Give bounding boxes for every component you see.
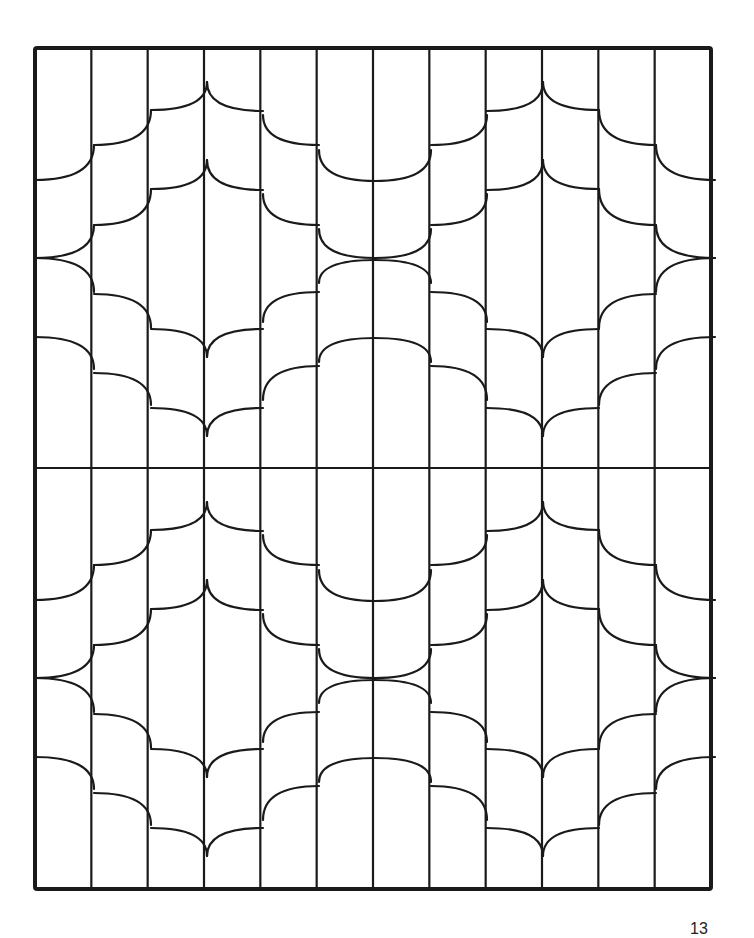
arc-segment bbox=[487, 580, 543, 610]
arc-segment bbox=[263, 614, 319, 645]
arc-segment bbox=[543, 160, 599, 189]
arc-segment bbox=[431, 194, 487, 225]
arc-segment bbox=[543, 828, 599, 856]
arc-segment bbox=[319, 649, 375, 678]
arc-segment bbox=[35, 258, 94, 292]
arc-segment bbox=[35, 565, 94, 600]
arc-segment bbox=[319, 570, 375, 601]
arc-segment bbox=[207, 502, 263, 531]
arc-segment bbox=[599, 609, 656, 645]
arc-segment bbox=[94, 189, 151, 225]
arc-segment bbox=[375, 649, 431, 678]
arc-segment bbox=[543, 82, 599, 110]
arc-segment bbox=[599, 530, 656, 565]
page-number: 13 bbox=[690, 920, 708, 938]
arc-segment bbox=[263, 786, 319, 820]
arc-segment bbox=[599, 793, 656, 825]
arc-segment bbox=[94, 530, 151, 565]
arc-segment bbox=[487, 408, 543, 436]
arc-segment bbox=[263, 366, 319, 400]
arc-segment bbox=[375, 229, 431, 258]
arc-segment bbox=[656, 258, 715, 292]
arc-segment bbox=[151, 408, 207, 436]
arc-segment bbox=[375, 338, 431, 362]
arc-segment bbox=[656, 678, 715, 712]
arc-segment bbox=[375, 150, 431, 181]
arc-segment bbox=[94, 793, 151, 825]
arc-segment bbox=[487, 502, 543, 531]
arc-segment bbox=[319, 680, 375, 703]
arc-segment bbox=[151, 329, 207, 357]
arc-segment bbox=[35, 337, 94, 369]
arc-segment bbox=[487, 160, 543, 190]
arc-segment bbox=[35, 225, 94, 258]
arc-segment bbox=[487, 329, 543, 357]
arc-segment bbox=[263, 115, 319, 145]
arc-segment bbox=[94, 609, 151, 645]
arc-segment bbox=[431, 786, 487, 820]
arc-segment bbox=[35, 678, 94, 712]
arc-segment bbox=[599, 110, 656, 145]
arc-segment bbox=[207, 828, 263, 856]
arc-segment bbox=[151, 160, 207, 189]
arc-segment bbox=[151, 82, 207, 110]
arc-segment bbox=[263, 194, 319, 225]
arc-segment bbox=[319, 229, 375, 258]
arc-segment bbox=[375, 758, 431, 782]
arc-segment bbox=[35, 145, 94, 180]
arc-segment bbox=[543, 580, 599, 609]
arc-segment bbox=[207, 82, 263, 111]
arc-segment bbox=[319, 338, 375, 362]
arc-segment bbox=[431, 366, 487, 400]
arc-segment bbox=[487, 82, 543, 111]
arc-segment bbox=[431, 292, 487, 322]
arc-segment bbox=[319, 150, 375, 181]
arc-segment bbox=[263, 292, 319, 322]
arc-segment bbox=[207, 408, 263, 436]
arc-segment bbox=[599, 714, 656, 748]
arc-segment bbox=[487, 828, 543, 856]
arc-segment bbox=[543, 749, 599, 777]
arc-segment bbox=[151, 828, 207, 856]
arc-segment bbox=[207, 329, 263, 357]
arc-segment bbox=[375, 570, 431, 601]
arc-segment bbox=[207, 580, 263, 610]
arc-segment bbox=[263, 535, 319, 565]
arc-segment bbox=[543, 502, 599, 530]
arc-segment bbox=[94, 714, 151, 748]
arc-segment bbox=[656, 645, 715, 678]
arc-segment bbox=[151, 580, 207, 609]
arc-segment bbox=[375, 680, 431, 703]
arc-segment bbox=[94, 294, 151, 328]
arc-segment bbox=[319, 758, 375, 782]
arc-segment bbox=[599, 189, 656, 225]
arc-segment bbox=[431, 535, 487, 565]
arc-segment bbox=[207, 749, 263, 777]
arc-segment bbox=[319, 260, 375, 283]
arc-segment bbox=[656, 337, 715, 369]
arc-segment bbox=[431, 115, 487, 145]
arc-segment bbox=[656, 145, 715, 180]
arc-segment bbox=[431, 614, 487, 645]
arc-segment bbox=[151, 749, 207, 777]
arc-segment bbox=[543, 329, 599, 357]
arc-segment bbox=[263, 712, 319, 742]
arc-segment bbox=[487, 749, 543, 777]
arc-segment bbox=[656, 757, 715, 789]
arc-segment bbox=[656, 225, 715, 258]
arc-segment bbox=[35, 757, 94, 789]
arc-segment bbox=[207, 160, 263, 190]
arc-segment bbox=[94, 110, 151, 145]
arc-segment bbox=[94, 373, 151, 405]
arc-segment bbox=[35, 645, 94, 678]
arc-segment bbox=[375, 260, 431, 283]
arc-segment bbox=[151, 502, 207, 530]
arc-segment bbox=[656, 565, 715, 600]
arc-segment bbox=[599, 294, 656, 328]
arc-segment bbox=[431, 712, 487, 742]
arc-segment bbox=[599, 373, 656, 405]
arc-segment bbox=[543, 408, 599, 436]
